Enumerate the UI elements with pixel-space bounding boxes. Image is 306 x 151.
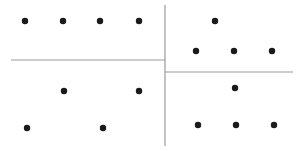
dot [136,18,142,24]
dot [232,85,238,91]
dot [100,125,106,131]
dot [60,18,66,24]
quadrant-bottom-left [24,88,142,131]
dot [269,48,275,54]
dot [24,125,30,131]
dot [136,88,142,94]
diagram-canvas [0,0,306,151]
dot-grouping-diagram [0,0,306,151]
dot [193,48,199,54]
dot [271,122,277,128]
quadrant-top-left [22,18,142,24]
dot [195,122,201,128]
dot [22,18,28,24]
dot [212,18,218,24]
dot [61,88,67,94]
quadrant-top-right [193,18,275,54]
dot [233,122,239,128]
dot [231,48,237,54]
quadrant-bottom-right [195,85,277,128]
dot [97,18,103,24]
